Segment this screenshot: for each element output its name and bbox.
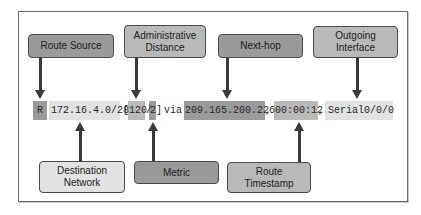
outgoing-interface-label: Outgoing Interface <box>313 26 398 58</box>
admin-distance-label: Administrative Distance <box>124 25 206 58</box>
next-hop-arrowhead <box>222 90 232 99</box>
admin-distance-text: Administrative Distance <box>130 30 200 54</box>
timestamp-arrow <box>298 130 301 162</box>
next-hop-value: 209.165.200.226 <box>185 101 275 120</box>
destination-arrow <box>79 130 82 161</box>
comma-1: , <box>265 101 271 120</box>
next-hop-label: Next-hop <box>218 34 303 58</box>
outgoing-interface-arrowhead <box>352 90 362 99</box>
admin-distance-arrow <box>135 58 138 91</box>
route-source-label: Route Source <box>28 34 114 58</box>
metric-text: Metric <box>163 167 190 179</box>
route-source-text: Route Source <box>40 40 101 52</box>
metric-label: Metric <box>134 161 219 184</box>
route-timestamp-label: Route Timestamp <box>227 162 311 193</box>
route-source-arrowhead <box>35 90 45 99</box>
timestamp-value: 00:00:12 <box>275 101 323 120</box>
route-source-code: R <box>37 101 43 120</box>
destination-network-value: 172.16.4.0/28 <box>51 101 129 120</box>
destination-network-text: Destination Network <box>50 165 114 189</box>
route-timestamp-text: Route Timestamp <box>239 166 299 190</box>
close-bracket: ] <box>156 101 162 120</box>
next-hop-arrow <box>226 58 229 91</box>
next-hop-text: Next-hop <box>240 40 281 52</box>
via-keyword: via <box>164 101 182 120</box>
destination-network-label: Destination Network <box>39 161 125 193</box>
interface-value: Serial0/0/0 <box>328 101 394 120</box>
comma-2: , <box>318 101 324 120</box>
admin-distance-value: 120 <box>129 101 147 120</box>
admin-distance-arrowhead <box>131 90 141 99</box>
metric-arrow <box>152 130 155 161</box>
outgoing-interface-text: Outgoing Interface <box>326 30 386 54</box>
outgoing-interface-arrow <box>356 58 359 91</box>
route-source-arrow <box>39 58 42 91</box>
